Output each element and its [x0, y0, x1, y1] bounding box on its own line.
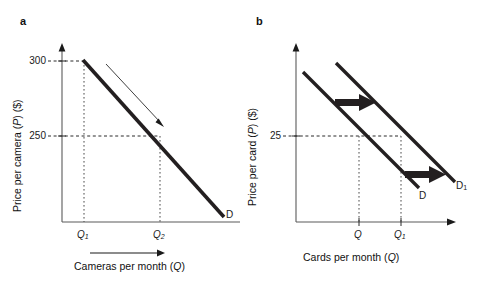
- panel-a-x-tick-q2: Q2: [153, 230, 165, 240]
- panel-b-guides: [283, 136, 401, 222]
- panel-b-y-axis: [293, 43, 300, 222]
- panel-a-y-axis-title-suffix: ) ($): [11, 99, 23, 118]
- panel-a: a: [0, 0, 241, 281]
- panel-b-x-tick-q1-sub: 1: [402, 233, 406, 240]
- panel-b-curve-label-d: D: [419, 190, 426, 201]
- panel-a-x-axis-title-prefix: Cameras per month (: [74, 260, 173, 272]
- panel-a-x-axis-title: Cameras per month (Q): [74, 261, 185, 272]
- panel-a-x-tick-q2-sub: 2: [161, 233, 165, 240]
- panel-a-curve-label-d-text: D: [226, 209, 233, 220]
- panel-b-y-axis-title-suffix: ) ($): [246, 108, 258, 127]
- panel-a-x-axis-title-suffix: ): [181, 260, 185, 272]
- panel-b-x-axis-title-var: Q: [388, 251, 396, 263]
- panel-a-x-tick-q1-sub: 1: [85, 233, 89, 240]
- panel-a-curve-label-d: D: [226, 209, 233, 220]
- panel-a-x-tick-q2-var: Q: [153, 229, 161, 240]
- panel-a-y-axis: [59, 43, 66, 222]
- panel-b-y-axis-title-var: P: [246, 127, 258, 134]
- panel-a-x-tick-q1: Q1: [77, 230, 89, 240]
- panel-b-x-tick-q1-var: Q: [394, 229, 402, 240]
- panel-a-demand-curve: [83, 60, 224, 217]
- panel-a-y-axis-title-prefix: Price per camera (: [11, 126, 23, 212]
- panel-b-curve-label-d1-sub: 1: [463, 184, 467, 191]
- panel-a-y-axis-title-var: P: [11, 119, 23, 126]
- panel-b-x-axis-title-prefix: Cards per month (: [303, 251, 388, 263]
- panel-b-x-tick-q1: Q1: [394, 230, 406, 240]
- panel-b-curve-label-d-text: D: [419, 190, 426, 201]
- panel-a-quantity-direction-arrow: [90, 250, 165, 257]
- panel-a-y-axis-title: Price per camera (P) ($): [12, 99, 23, 212]
- panel-b-y-axis-title-prefix: Price per card (: [246, 134, 258, 206]
- panel-b-x-tick-q-var: Q: [354, 229, 362, 240]
- panel-b: b: [241, 0, 482, 281]
- panel-b-y-tick-25: 25: [255, 130, 281, 141]
- figure-container: a: [0, 0, 482, 281]
- panel-b-x-tick-q: Q: [354, 230, 362, 240]
- panel-b-x-axis-title-suffix: ): [396, 251, 400, 263]
- panel-b-x-axis: [296, 218, 456, 225]
- panel-b-x-axis-title: Cards per month (Q): [303, 252, 399, 263]
- panel-a-x-tick-q1-var: Q: [77, 229, 85, 240]
- panel-a-y-tick-300: 300: [14, 55, 46, 66]
- panel-b-curve-label-d1: D1: [456, 180, 467, 191]
- panel-b-y-axis-title: Price per card (P) ($): [247, 108, 258, 206]
